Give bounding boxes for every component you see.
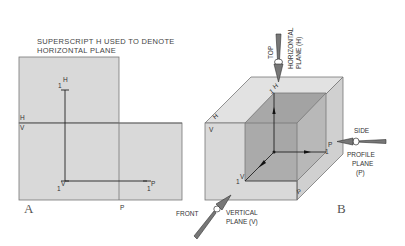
side-arrow-eye xyxy=(353,138,359,145)
horizontal-plane-label-2: PLANE (H) xyxy=(295,37,303,69)
horizontal-plane-label-1: HORIZONTAL xyxy=(287,27,294,69)
top-arrow-tail xyxy=(276,34,281,60)
annotation-line-2: HORIZONTAL PLANE xyxy=(37,46,116,55)
point-p-sup: P xyxy=(151,180,155,187)
panel-a-unfolded-planes: 1 H 1 V 1 P H V P A xyxy=(19,57,182,216)
side-view-arrow: SIDE PROFILE PLANE (P) xyxy=(337,127,386,177)
b-point-v-sup: V xyxy=(240,173,245,180)
face-label-v: V xyxy=(209,126,214,133)
vertical-plane-label-1: VERTICAL xyxy=(226,209,258,216)
top-view-arrow: TOP HORIZONTAL PLANE (H) xyxy=(267,27,303,82)
profile-plane-label-1: PROFILE xyxy=(347,151,375,158)
top-view-label: TOP xyxy=(267,46,274,59)
orthographic-projection-diagram: SUPERSCRIPT H USED TO DENOTE HORIZONTAL … xyxy=(0,0,405,246)
point-h-sup: H xyxy=(63,76,68,83)
b-point-p-base: 1 xyxy=(325,148,329,155)
side-arrow-tail xyxy=(356,140,386,144)
front-view-arrow: FRONT VERTICAL PLANE (V) xyxy=(176,195,258,239)
front-view-label: FRONT xyxy=(176,210,198,217)
fold-label-v: V xyxy=(20,124,25,131)
profile-plane-label-3: (P) xyxy=(356,169,365,177)
side-view-label: SIDE xyxy=(354,127,370,134)
profile-plane-label-2: PLANE xyxy=(352,160,374,167)
annotation-line-1: SUPERSCRIPT H USED TO DENOTE xyxy=(37,37,175,46)
fold-label-h: H xyxy=(20,114,25,121)
vertical-plane-label-2: PLANE (V) xyxy=(226,218,258,226)
panel-a-letter: A xyxy=(24,201,34,216)
vertical-profile-plane-rect xyxy=(19,123,182,200)
b-point-p-sup: P xyxy=(328,141,332,148)
panel-b-glass-box: 1 H 1 V 1 P H V P B xyxy=(205,77,346,216)
fold-label-p: P xyxy=(120,204,124,211)
point-h-base: 1 xyxy=(58,82,62,89)
point-v-sup: V xyxy=(61,180,66,187)
panel-b-letter: B xyxy=(337,201,346,216)
